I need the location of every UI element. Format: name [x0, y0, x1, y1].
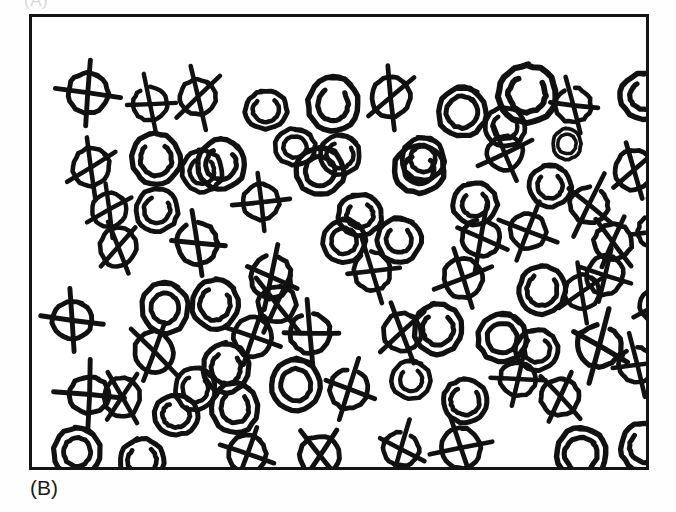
clipped-panel-label-a: (A) [24, 0, 48, 11]
crossed-circle-symbol[interactable] [39, 287, 105, 353]
crossed-circle-symbol[interactable] [287, 422, 353, 470]
crossed-circle-symbol[interactable] [447, 204, 515, 272]
spiral-symbol[interactable] [546, 419, 615, 470]
crossed-circle-symbol[interactable] [55, 60, 121, 126]
crossed-circle-symbol[interactable] [228, 169, 294, 235]
spiral-symbol[interactable] [308, 123, 371, 186]
figure-page: (A) (B) [0, 0, 676, 512]
crossed-circle-symbol[interactable] [569, 239, 640, 310]
crossed-circle-symbol[interactable] [312, 352, 386, 426]
panel-label-b: (B) [30, 476, 58, 500]
spiral-symbol[interactable] [610, 61, 649, 130]
spiral-symbol[interactable] [477, 99, 534, 156]
spiral-symbol[interactable] [611, 413, 649, 470]
crossed-circle-symbol[interactable] [242, 269, 313, 340]
spiral-symbol[interactable] [518, 154, 581, 217]
figure-frame [29, 14, 649, 470]
crossed-circle-symbol[interactable] [484, 345, 553, 414]
spiral-symbol[interactable] [110, 429, 175, 470]
spiral-symbol[interactable] [165, 359, 225, 419]
spiral-symbol[interactable] [175, 144, 229, 198]
spiral-symbol[interactable] [381, 350, 440, 409]
spiral-symbol[interactable] [393, 129, 454, 190]
symbol-array [32, 17, 646, 467]
crossed-circle-symbol[interactable] [90, 365, 154, 429]
